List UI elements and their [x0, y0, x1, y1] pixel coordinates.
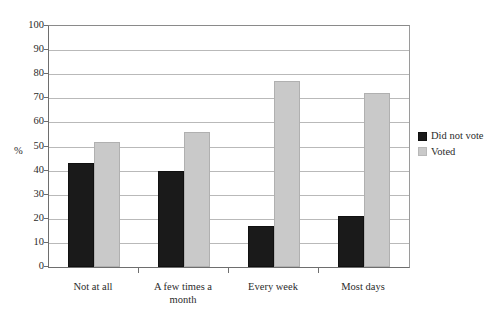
chart-figure: 0102030405060708090100 % Not at allA few…	[0, 0, 501, 314]
y-axis-tick-label: 40	[4, 164, 44, 175]
legend-item: Did not vote	[418, 131, 484, 142]
bar	[184, 132, 210, 267]
y-axis-tick-label: 60	[4, 116, 44, 127]
x-axis-tick-label: Most days	[303, 280, 423, 293]
legend: Did not voteVoted	[418, 131, 484, 157]
legend-item: Voted	[418, 147, 484, 158]
legend-label: Voted	[431, 147, 455, 158]
bar	[248, 226, 274, 267]
bar	[94, 142, 120, 267]
y-axis-tick-label: 30	[4, 188, 44, 199]
x-axis-tick-mark	[228, 268, 229, 273]
legend-swatch-icon	[418, 147, 427, 156]
plot-area	[48, 25, 410, 268]
y-axis-tick-label: 50	[4, 140, 44, 151]
gridline	[49, 74, 409, 75]
gridline	[49, 122, 409, 123]
bar	[364, 93, 390, 267]
x-axis-tick-mark	[138, 268, 139, 273]
gridline	[49, 50, 409, 51]
bar	[274, 81, 300, 267]
bar	[338, 216, 364, 267]
y-axis-tick-label: 0	[4, 261, 44, 272]
x-axis-tick-mark	[318, 268, 319, 273]
y-axis-tick-label: 100	[4, 20, 44, 31]
y-axis-title: %	[14, 146, 23, 157]
bar	[158, 171, 184, 267]
gridline	[49, 98, 409, 99]
legend-swatch-icon	[418, 132, 427, 141]
y-axis-tick-label: 90	[4, 44, 44, 55]
y-axis-tick-label: 80	[4, 68, 44, 79]
legend-label: Did not vote	[431, 131, 484, 142]
y-axis-tick-label: 10	[4, 237, 44, 248]
x-axis: Not at allA few times a monthEvery weekM…	[48, 273, 410, 313]
y-axis-tick-label: 20	[4, 213, 44, 224]
bar	[68, 163, 94, 267]
y-axis-tick-label: 70	[4, 92, 44, 103]
